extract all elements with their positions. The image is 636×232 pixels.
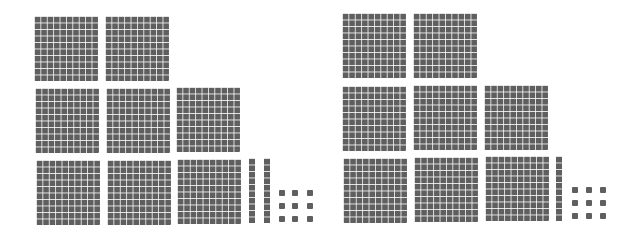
right-panel: 819 [0, 0, 636, 232]
hundred-flat [485, 156, 549, 221]
one-cube [572, 187, 578, 193]
hundred-flat [413, 85, 477, 150]
hundred-flat [413, 13, 477, 78]
one-cube [600, 187, 606, 193]
hundred-flat [484, 85, 548, 150]
one-cube [600, 200, 606, 206]
hundred-flat [414, 157, 478, 222]
one-cube [572, 200, 578, 206]
one-cube [586, 187, 592, 193]
one-cube [600, 213, 606, 219]
one-cube [586, 213, 592, 219]
hundred-flat [342, 86, 406, 151]
hundred-flat [342, 13, 406, 78]
one-cube [572, 213, 578, 219]
one-cube [586, 200, 592, 206]
hundred-flat [343, 158, 407, 223]
ten-rod [556, 156, 562, 221]
